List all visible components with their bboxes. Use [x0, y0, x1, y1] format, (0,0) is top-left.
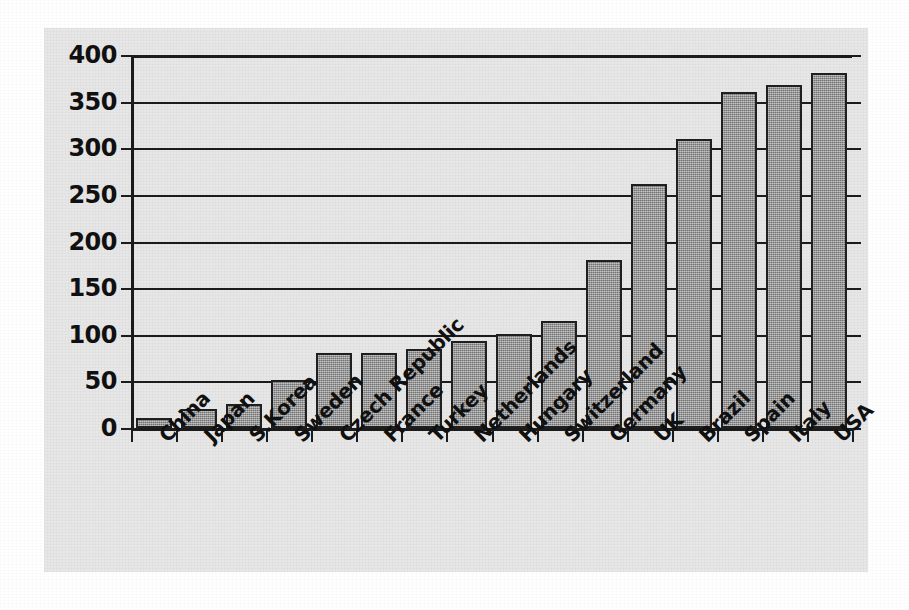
- bar-slot: [131, 55, 176, 428]
- bar-usa: [811, 73, 847, 428]
- y-tick-mark-0: [121, 428, 131, 430]
- y-tick-mark-right-350: [852, 102, 861, 104]
- x-axis-category-labels: ChinaJapanS.KoreaSwedenCzech RepublicFra…: [131, 430, 852, 560]
- scanned-page: 050100150200250300350400 ChinaJapanS.Kor…: [0, 0, 909, 610]
- y-tick-mark-right-100: [852, 335, 861, 337]
- y-axis-label-300: 300: [68, 134, 117, 162]
- y-axis-label-200: 200: [68, 228, 117, 256]
- y-tick-mark-right-200: [852, 242, 861, 244]
- y-tick-mark-100: [121, 335, 131, 337]
- bar-slot: [446, 55, 491, 428]
- bar-spain: [721, 92, 757, 428]
- plot-area: 050100150200250300350400: [131, 55, 852, 428]
- y-tick-mark-350: [121, 102, 131, 104]
- y-tick-mark-right-150: [852, 288, 861, 290]
- y-axis-label-150: 150: [68, 274, 117, 302]
- bar-slot: [176, 55, 221, 428]
- y-axis-label-50: 50: [85, 367, 117, 395]
- bar-slot: [807, 55, 852, 428]
- bar-slot: [762, 55, 807, 428]
- y-tick-mark-300: [121, 148, 131, 150]
- bar-slot: [221, 55, 266, 428]
- y-axis-label-100: 100: [68, 321, 117, 349]
- bar-italy: [766, 85, 802, 428]
- y-axis-label-350: 350: [68, 88, 117, 116]
- y-tick-mark-right-300: [852, 148, 861, 150]
- y-tick-mark-400: [121, 55, 131, 57]
- chart-figure-panel: 050100150200250300350400 ChinaJapanS.Kor…: [44, 28, 868, 572]
- y-axis-label-250: 250: [68, 181, 117, 209]
- y-tick-mark-150: [121, 288, 131, 290]
- y-axis-label-400: 400: [68, 41, 117, 69]
- bar-series: [131, 55, 852, 428]
- y-tick-mark-250: [121, 195, 131, 197]
- y-tick-mark-50: [121, 381, 131, 383]
- y-tick-mark-200: [121, 242, 131, 244]
- y-tick-mark-right-250: [852, 195, 861, 197]
- y-tick-mark-right-50: [852, 381, 861, 383]
- y-axis-label-0: 0: [101, 414, 117, 442]
- y-tick-mark-right-400: [852, 55, 861, 57]
- bar-slot: [717, 55, 762, 428]
